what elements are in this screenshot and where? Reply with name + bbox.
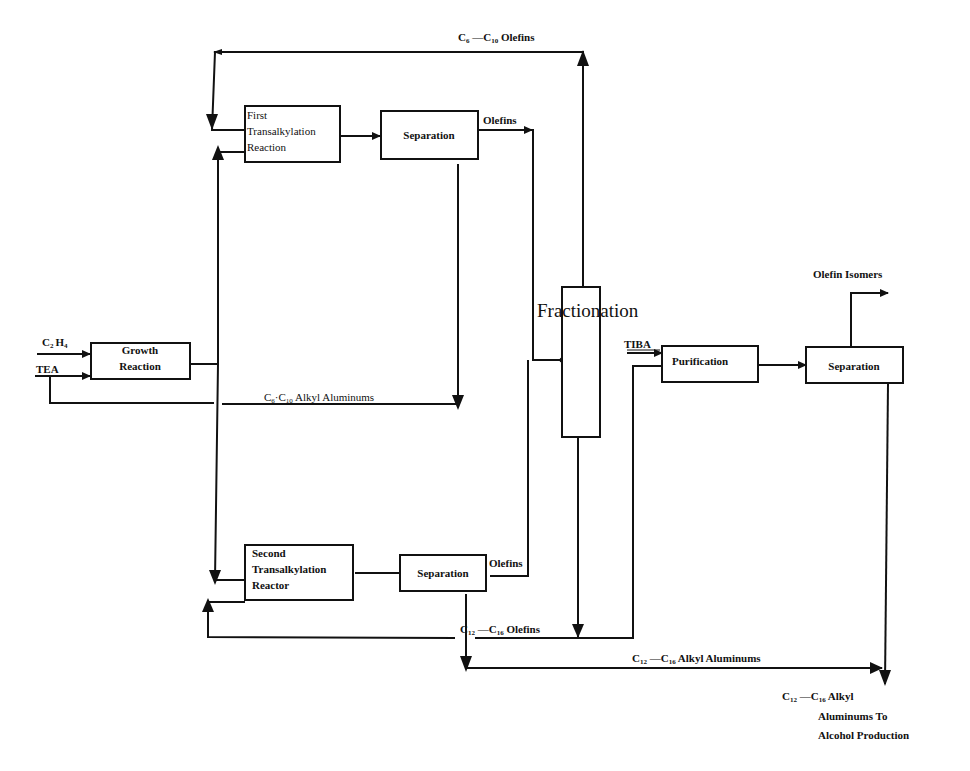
arrow-up-icon — [202, 598, 214, 612]
growth-reaction-box: Growth Reaction — [91, 343, 190, 379]
c12-c16-alkyl-label: C12 —C16 Alkyl Aluminums — [632, 652, 761, 666]
process-flow-diagram: Growth Reaction First Transalkylation Re… — [0, 0, 970, 771]
growth-reaction-line1: Growth — [122, 344, 158, 356]
first-transalkylation-line1: First — [247, 109, 267, 121]
first-transalkylation-line2: Transalkylation — [247, 125, 316, 137]
second-transalkylation-line3: Reactor — [252, 579, 289, 591]
arrow-down-icon — [572, 624, 584, 638]
second-transalkylation-box: Second Transalkylation Reactor — [245, 545, 353, 600]
product-label-line3: Alcohol Production — [818, 729, 909, 741]
separation-1-box: Separation — [381, 111, 478, 159]
separation-3-box: Separation — [806, 347, 903, 383]
first-transalkylation-box: First Transalkylation Reaction — [245, 106, 340, 162]
tea-bypass-line — [50, 376, 214, 403]
second-transalkylation-line1: Second — [252, 547, 286, 559]
tiba-label: TIBA — [624, 338, 651, 350]
separation-1-label: Separation — [403, 129, 454, 141]
c12-c16-olefins-label: C12 —C16 Olefins — [460, 623, 541, 637]
arrow-down-icon — [206, 114, 218, 130]
separation-3-label: Separation — [828, 360, 879, 372]
separation-2-box: Separation — [400, 555, 486, 591]
trunk-up-line — [218, 152, 245, 364]
arrow-down-icon — [460, 656, 472, 672]
olefins-2-line — [490, 360, 528, 576]
tea-label: TEA — [36, 363, 59, 375]
product-label-line1: C12 —C16 Alkyl — [782, 690, 853, 704]
arrow-right-icon — [524, 126, 533, 134]
purification-box: Purification — [662, 346, 758, 382]
fractionation-column: Fractionation — [537, 287, 639, 437]
growth-reaction-line2: Reaction — [119, 360, 161, 372]
first-transalkylation-line3: Reaction — [247, 141, 287, 153]
c6-c10-alkyl-line — [222, 164, 458, 404]
c12-c16-olefins-recycle-line — [208, 602, 455, 638]
product-label-line2: Aluminums To — [818, 710, 888, 722]
olefin-isomers-line — [851, 293, 888, 348]
c6-c10-olefins-recycle-line — [212, 52, 583, 287]
fractionation-label: Fractionation — [537, 300, 639, 321]
arrow-down-icon — [452, 395, 464, 410]
second-transalkylation-line2: Transalkylation — [252, 563, 326, 575]
purification-label: Purification — [672, 355, 728, 367]
c6-c10-alkyl-label: C6·C10 Alkyl Aluminums — [264, 391, 374, 405]
product-label: C12 —C16 Alkyl Aluminums To Alcohol Prod… — [782, 690, 909, 741]
olefin-isomers-label: Olefin Isomers — [813, 268, 883, 280]
olefins-2-label: Olefins — [489, 557, 523, 569]
arrow-down-icon — [879, 670, 891, 686]
arrow-down-icon — [209, 570, 221, 585]
c2h4-label: C2H4 — [42, 336, 68, 350]
c6-c10-olefins-label: C6 —C10 Olefins — [458, 31, 535, 45]
separation-2-label: Separation — [417, 567, 468, 579]
product-line — [885, 384, 888, 684]
olefins-1-label: Olefins — [483, 114, 517, 126]
olefins-1-line — [479, 130, 562, 360]
trunk-down-line — [215, 364, 245, 580]
